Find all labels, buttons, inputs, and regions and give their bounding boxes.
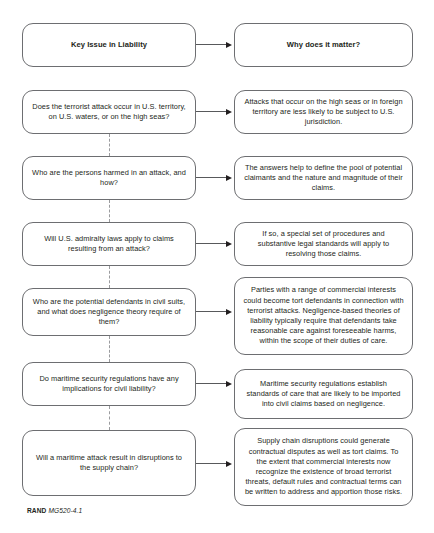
matter-box-4: Parties with a range of commercial inter… xyxy=(234,277,413,355)
matter-text-2: The answers help to define the pool of p… xyxy=(243,163,404,194)
issue-text-5: Do maritime security regulations have an… xyxy=(31,374,187,394)
arrow-shaft xyxy=(196,311,227,312)
arrow-shaft xyxy=(196,111,227,112)
issue-text-3: Will U.S. admiralty laws apply to claims… xyxy=(31,234,187,254)
matter-box-6: Supply chain disruptions could generate … xyxy=(234,428,413,506)
dashed-connector-3 xyxy=(109,266,110,288)
matter-text-5: Maritime security regulations establish … xyxy=(243,379,404,410)
issue-box-3: Will U.S. admiralty laws apply to claims… xyxy=(22,222,196,266)
matter-text-1: Attacks that occur on the high seas or i… xyxy=(243,97,404,128)
header-label-why-matter: Why does it matter? xyxy=(243,40,404,50)
arrow-shaft xyxy=(196,177,227,178)
footer-brand-label: RAND xyxy=(27,507,46,514)
issue-text-1: Does the terrorist attack occur in U.S. … xyxy=(31,102,187,122)
dashed-connector-4 xyxy=(109,336,110,362)
issue-text-6: Will a maritime attack result in disrupt… xyxy=(31,453,187,473)
matter-text-6: Supply chain disruptions could generate … xyxy=(243,436,404,497)
arrow-shaft xyxy=(196,383,227,384)
matter-text-4: Parties with a range of commercial inter… xyxy=(243,285,404,346)
arrow-row-3 xyxy=(196,239,234,248)
issue-box-1: Does the terrorist attack occur in U.S. … xyxy=(22,90,196,134)
arrow-head-icon xyxy=(226,381,232,387)
issue-text-2: Who are the persons harmed in an attack,… xyxy=(31,168,187,188)
arrow-head-icon xyxy=(226,309,232,315)
arrow-row-4 xyxy=(196,307,234,316)
arrow-head-icon xyxy=(226,241,232,247)
arrow-head-icon xyxy=(226,175,232,181)
arrow-shaft xyxy=(196,463,227,464)
dashed-connector-1 xyxy=(109,134,110,156)
matter-box-1: Attacks that occur on the high seas or i… xyxy=(234,90,413,134)
liability-flow-diagram: Key Issue in Liability Why does it matte… xyxy=(0,0,434,533)
matter-box-3: If so, a special set of procedures and s… xyxy=(234,222,413,266)
matter-box-2: The answers help to define the pool of p… xyxy=(234,156,413,200)
issue-text-4: Who are the potential defendants in civi… xyxy=(31,297,187,328)
arrow-shaft xyxy=(196,243,227,244)
header-box-key-issue: Key Issue in Liability xyxy=(22,23,196,67)
header-box-why-matter: Why does it matter? xyxy=(234,23,413,67)
dashed-connector-5 xyxy=(109,406,110,430)
arrow-shaft xyxy=(196,44,227,45)
header-label-key-issue: Key Issue in Liability xyxy=(31,40,187,50)
issue-box-2: Who are the persons harmed in an attack,… xyxy=(22,156,196,200)
arrow-head-icon xyxy=(226,461,232,467)
figure-source-caption: RAND MG520-4.1 xyxy=(27,507,82,514)
issue-box-5: Do maritime security regulations have an… xyxy=(22,362,196,406)
matter-text-3: If so, a special set of procedures and s… xyxy=(243,229,404,260)
matter-box-5: Maritime security regulations establish … xyxy=(234,369,413,419)
arrow-head-icon xyxy=(226,109,232,115)
arrow-head-icon xyxy=(226,42,232,48)
arrow-row-6 xyxy=(196,459,234,468)
arrow-header xyxy=(196,40,234,49)
issue-box-4: Who are the potential defendants in civi… xyxy=(22,288,196,336)
arrow-row-5 xyxy=(196,379,234,388)
footer-figure-code: MG520-4.1 xyxy=(48,507,82,514)
arrow-row-1 xyxy=(196,107,234,116)
dashed-connector-2 xyxy=(109,200,110,222)
arrow-row-2 xyxy=(196,173,234,182)
issue-box-6: Will a maritime attack result in disrupt… xyxy=(22,430,196,496)
